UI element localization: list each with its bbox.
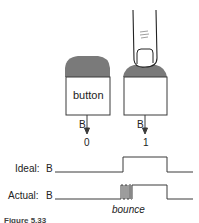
button-pressed	[123, 65, 167, 115]
button-label: button	[73, 90, 104, 101]
left-output-signal: B	[79, 120, 86, 130]
bounce-annotation: bounce	[112, 205, 145, 215]
figure-caption: Figure 5.33	[4, 216, 46, 223]
bounce-region	[129, 185, 132, 199]
left-output-value: 0	[84, 138, 90, 148]
actual-signal: B	[46, 191, 53, 201]
ideal-label: Ideal:	[15, 164, 39, 174]
right-output-signal: B	[137, 120, 144, 130]
right-output-value: 1	[143, 138, 149, 148]
ideal-signal: B	[46, 164, 53, 174]
button-unpressed	[65, 56, 110, 115]
finger-icon	[133, 10, 157, 67]
actual-label: Actual:	[8, 191, 39, 201]
actual-waveform	[55, 185, 193, 199]
button-cap-raised	[65, 56, 110, 77]
button-body-right	[124, 77, 167, 115]
ideal-waveform	[55, 157, 193, 172]
